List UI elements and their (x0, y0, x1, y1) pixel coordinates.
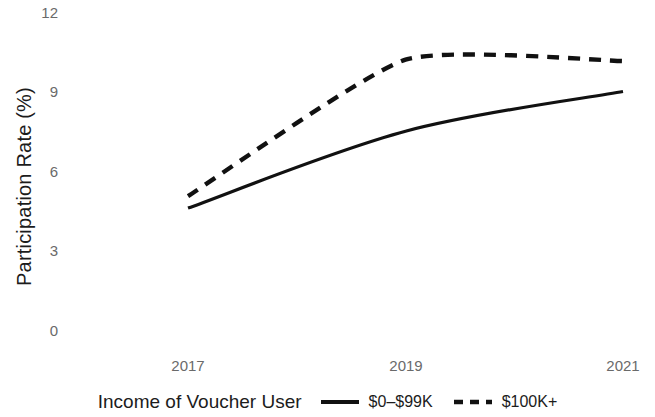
series-line-100k-plus (188, 54, 623, 196)
legend-title: Income of Voucher User (98, 391, 302, 413)
series-line-0-99k (188, 92, 623, 209)
legend-label-100k-plus: $100K+ (502, 393, 558, 411)
legend: Income of Voucher User $0–$99K $100K+ (0, 386, 655, 417)
legend-key-solid-icon (320, 395, 360, 409)
plot-area (0, 0, 655, 360)
line-chart-figure: Participation Rate (%) 12 9 6 3 0 2017 2… (0, 0, 655, 417)
legend-entry-0-99k[interactable]: $0–$99K (320, 393, 433, 411)
legend-entry-100k-plus[interactable]: $100K+ (453, 393, 558, 411)
legend-key-dashed-icon (453, 395, 493, 409)
legend-label-0-99k: $0–$99K (369, 393, 433, 411)
